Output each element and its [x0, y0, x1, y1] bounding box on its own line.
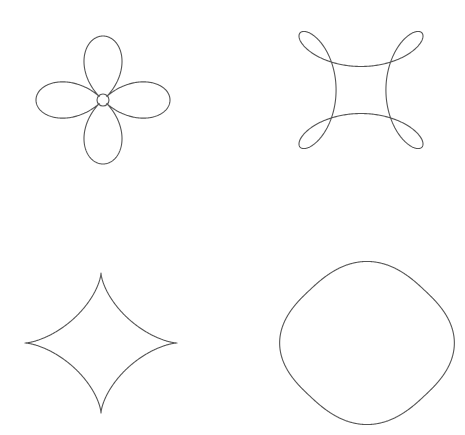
flower-center-loop	[97, 94, 109, 106]
astroid-curve	[25, 273, 177, 413]
curves-canvas	[0, 0, 465, 435]
four-petal-flower-curve	[36, 36, 170, 164]
four-loop-knot-curve	[299, 31, 423, 148]
squircle-curve	[280, 261, 455, 424]
